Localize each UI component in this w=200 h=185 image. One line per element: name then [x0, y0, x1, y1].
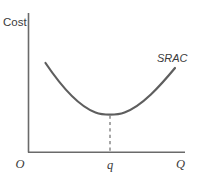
y-axis-label: Cost: [3, 16, 27, 28]
quantity-label: q: [107, 158, 113, 172]
x-axis-label: Q: [176, 157, 185, 171]
srac-curve: [46, 63, 176, 115]
srac-cost-curve-figure: Cost O q Q SRAC: [0, 0, 200, 185]
origin-label: O: [16, 157, 25, 171]
srac-curve-label: SRAC: [157, 52, 188, 64]
